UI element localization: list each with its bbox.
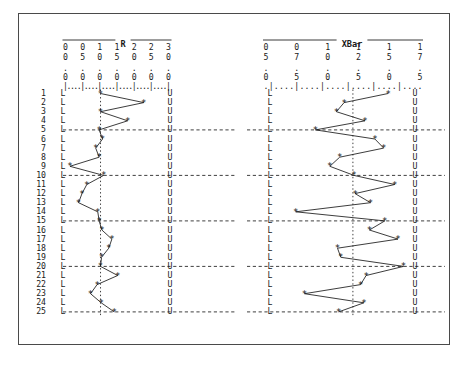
control-chart-canvas: RXBar00.005.010.015.020.025.030.005.007.… [0,0,468,367]
svg-text:1: 1 [418,42,423,52]
svg-text:5: 5 [149,52,154,62]
svg-text:5: 5 [387,52,392,62]
svg-text:0: 0 [166,52,171,62]
svg-text:*: * [361,298,366,308]
svg-text:7: 7 [294,52,299,62]
svg-text:.: . [325,63,330,73]
svg-text:0: 0 [63,42,68,52]
svg-text:.: . [149,63,154,73]
svg-text:0: 0 [97,52,102,62]
svg-text:*: * [100,134,105,144]
svg-text:*: * [363,271,368,281]
svg-text:*: * [293,207,298,217]
svg-text:1: 1 [387,42,392,52]
svg-text:2: 2 [149,42,154,52]
svg-text:*: * [381,143,386,153]
svg-text:.: . [97,63,102,73]
svg-text:*: * [101,170,106,180]
svg-text:U: U [413,306,418,316]
svg-text:R: R [120,39,126,49]
svg-text:*: * [368,198,373,208]
svg-text:.: . [418,63,423,73]
svg-text:*: * [341,98,346,108]
svg-text:3: 3 [166,42,171,52]
svg-text:*: * [334,107,339,117]
svg-text:*: * [395,234,400,244]
svg-text:*: * [99,225,104,235]
svg-text:1: 1 [97,42,102,52]
svg-text:L: L [61,306,66,316]
svg-text:*: * [88,289,93,299]
svg-text:1: 1 [325,42,330,52]
svg-text:0: 0 [264,42,269,52]
svg-text:*: * [382,216,387,226]
svg-text:.: . [132,63,137,73]
svg-text:*: * [336,307,341,317]
svg-text:5: 5 [80,52,85,62]
svg-text:*: * [98,107,103,117]
svg-text:2: 2 [356,52,361,62]
svg-text:0: 0 [132,52,137,62]
svg-text:1: 1 [356,42,361,52]
svg-text:*: * [302,289,307,299]
svg-text:*: * [84,180,89,190]
svg-text:*: * [362,116,367,126]
svg-text:*: * [98,89,103,99]
svg-text:.: . [418,81,423,91]
svg-text:*: * [96,152,101,162]
svg-text:*: * [112,307,117,317]
svg-text:0: 0 [294,42,299,52]
svg-text:*: * [337,152,342,162]
svg-text:1: 1 [115,42,120,52]
svg-text:.: . [387,63,392,73]
svg-text:*: * [76,198,81,208]
svg-text:*: * [141,98,146,108]
svg-text:.: . [115,63,120,73]
svg-text:25: 25 [36,306,46,316]
svg-text:.: . [63,63,68,73]
svg-text:2: 2 [132,42,137,52]
svg-text:*: * [352,189,357,199]
svg-text:*: * [106,243,111,253]
svg-text:*: * [98,261,103,271]
svg-text:7: 7 [418,52,423,62]
svg-text:*: * [67,161,72,171]
svg-text:.: . [166,63,171,73]
svg-text:*: * [125,116,130,126]
svg-text:0: 0 [80,42,85,52]
svg-text:.: . [80,63,85,73]
svg-text:*: * [401,261,406,271]
svg-text:5: 5 [264,52,269,62]
svg-text:*: * [94,280,99,290]
svg-text:5: 5 [115,52,120,62]
svg-text:*: * [313,125,318,135]
svg-text:.: . [264,63,269,73]
svg-text:L: L [268,306,273,316]
svg-text:*: * [327,161,332,171]
svg-text:*: * [372,134,377,144]
svg-text:.: . [356,63,361,73]
svg-text:*: * [115,271,120,281]
svg-text:*: * [385,89,390,99]
svg-text:*: * [98,298,103,308]
svg-text:0: 0 [63,52,68,62]
svg-text:*: * [338,252,343,262]
svg-text:*: * [351,170,356,180]
svg-text:*: * [367,225,372,235]
svg-text:U: U [168,306,173,316]
svg-text:.: . [294,63,299,73]
svg-text:0: 0 [325,52,330,62]
screenshot-root: RXBar00.005.010.015.020.025.030.005.007.… [0,0,468,367]
svg-text:*: * [392,180,397,190]
svg-text:*: * [358,280,363,290]
